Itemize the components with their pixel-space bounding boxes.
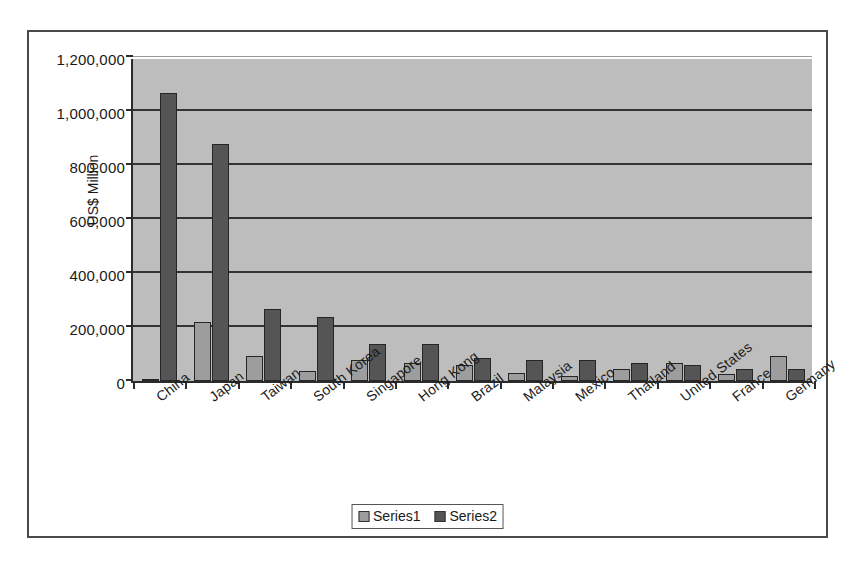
bar-series2[interactable] bbox=[212, 144, 229, 381]
bar-series1[interactable] bbox=[508, 373, 525, 381]
x-axis-category-labels: ChinaJapanTaiwanSouth KoreaSingaporeHong… bbox=[131, 386, 812, 476]
bar-series2[interactable] bbox=[317, 317, 334, 381]
y-axis-tick bbox=[126, 55, 133, 57]
y-axis-tick bbox=[126, 325, 133, 327]
bar-group bbox=[185, 59, 237, 381]
y-axis-tick-label: 200,000 bbox=[69, 321, 125, 338]
bar-group bbox=[500, 59, 552, 381]
bar-series2[interactable] bbox=[160, 93, 177, 381]
bar-group bbox=[762, 59, 814, 381]
y-axis-tick-label: 1,200,000 bbox=[56, 51, 125, 68]
bar-series1[interactable] bbox=[194, 322, 211, 381]
bar-group bbox=[290, 59, 342, 381]
y-axis-title: US$ Million bbox=[85, 110, 101, 270]
bar-group bbox=[604, 59, 656, 381]
y-axis-tick bbox=[126, 217, 133, 219]
y-axis-tick bbox=[126, 271, 133, 273]
bar-series2[interactable] bbox=[264, 309, 281, 381]
legend-swatch-icon bbox=[435, 511, 446, 522]
legend-label: Series1 bbox=[373, 508, 420, 524]
bar-group bbox=[133, 59, 185, 381]
legend-swatch-icon bbox=[358, 511, 369, 522]
legend-label: Series2 bbox=[450, 508, 497, 524]
bar-group bbox=[657, 59, 709, 381]
bar-series1[interactable] bbox=[246, 356, 263, 381]
bar-group bbox=[238, 59, 290, 381]
bar-group bbox=[343, 59, 395, 381]
gridline bbox=[133, 56, 812, 57]
bar-group bbox=[395, 59, 447, 381]
y-axis-tick bbox=[126, 109, 133, 111]
chart-legend[interactable]: Series1Series2 bbox=[351, 504, 504, 529]
y-axis-tick bbox=[126, 163, 133, 165]
bar-group bbox=[447, 59, 499, 381]
y-axis-tick-label: 0 bbox=[116, 375, 125, 392]
legend-entry[interactable]: Series1 bbox=[358, 508, 420, 524]
plot-area bbox=[131, 59, 812, 383]
bar-series1[interactable] bbox=[142, 379, 159, 381]
bar-group bbox=[552, 59, 604, 381]
chart-frame: 0200,000400,000600,000800,0001,000,0001,… bbox=[27, 30, 828, 538]
legend-entry[interactable]: Series2 bbox=[435, 508, 497, 524]
bar-group bbox=[709, 59, 761, 381]
y-axis-tick bbox=[126, 379, 133, 381]
